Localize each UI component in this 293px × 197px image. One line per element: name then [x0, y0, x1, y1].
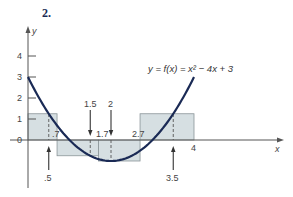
sample-label-1.5: 1.5 [84, 99, 97, 109]
sample-label-0.5: .5 [44, 173, 52, 183]
x-tick-4: 4 [191, 143, 196, 153]
sample-label-3.5: 3.5 [166, 173, 179, 183]
arrow-down-icon [109, 130, 114, 136]
partition-label-0.7: .7 [52, 129, 60, 139]
partition-label-1.7: 1.7 [96, 129, 109, 139]
y-axis-label: y [31, 26, 37, 36]
riemann-rectangle [99, 140, 141, 161]
y-tick-3: 3 [17, 72, 22, 82]
y-tick-0: 0 [17, 135, 22, 145]
arrow-up-icon [171, 146, 176, 152]
y-axis-arrow-icon [26, 26, 31, 33]
partition-label-2.7: 2.7 [132, 129, 145, 139]
riemann-sum-chart: 2. y x 4 3 2 1 0 .7 1.7 2.7 4 .5 3.5 [0, 0, 293, 197]
x-axis-arrow-icon [277, 138, 284, 143]
y-tick-2: 2 [17, 93, 22, 103]
riemann-rectangle [140, 114, 194, 140]
arrow-down-icon [88, 130, 93, 136]
y-tick-4: 4 [17, 51, 22, 61]
x-axis-label: x [274, 144, 280, 154]
problem-label: 2. [42, 6, 51, 20]
arrow-up-icon [47, 146, 52, 152]
function-label: y = f(x) = x² − 4x + 3 [147, 63, 234, 74]
sample-label-2: 2 [108, 99, 113, 109]
y-tick-1: 1 [17, 114, 22, 124]
